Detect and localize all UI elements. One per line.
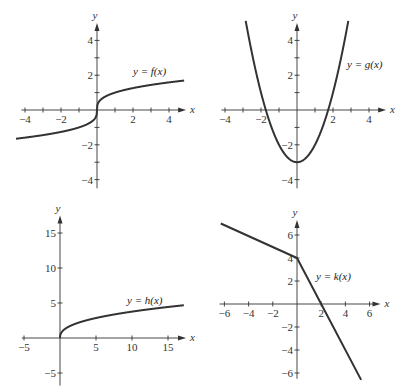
x-tick-label: 2	[330, 113, 336, 125]
function-curve-h	[60, 305, 184, 338]
x-axis-arrow-icon	[372, 302, 380, 307]
x-axis-arrow-icon	[178, 336, 186, 341]
y-tick-label: −5	[44, 367, 56, 379]
x-tick-label: −4	[243, 307, 255, 319]
x-tick-label: 4	[366, 113, 372, 125]
y-tick-label: 6	[288, 229, 294, 241]
x-tick-label: −5	[18, 341, 30, 353]
y-tick-label: 2	[288, 69, 294, 81]
y-axis-label: y	[92, 9, 98, 21]
x-tick-label: 4	[166, 113, 172, 125]
x-axis-label: x	[189, 103, 195, 115]
graph-panel-g: −4−22442−2−4xyy = g(x)	[219, 9, 395, 188]
x-tick-label: 4	[343, 307, 349, 319]
y-tick-label: −6	[281, 367, 293, 379]
y-axis-label: y	[292, 206, 298, 218]
graphs-canvas: −4−22442−2−4xyy = f(x)−4−22442−2−4xyy = …	[0, 0, 405, 392]
x-tick-label: −4	[19, 113, 31, 125]
graph-panel-h: −55101515105−5xyy = h(x)	[18, 202, 195, 386]
y-tick-label: −4	[81, 174, 93, 186]
y-axis-label: y	[292, 9, 298, 21]
function-label: y = g(x)	[346, 58, 383, 71]
function-label: y = k(x)	[315, 270, 351, 283]
y-tick-label: 4	[88, 34, 94, 46]
x-tick-label: 15	[163, 341, 175, 353]
x-tick-label: 5	[93, 341, 99, 353]
x-tick-label: −2	[255, 113, 267, 125]
x-axis-arrow-icon	[378, 108, 386, 113]
x-axis-label: x	[389, 103, 395, 115]
y-axis-arrow-icon	[95, 23, 100, 31]
x-tick-label: 2	[130, 113, 136, 125]
y-tick-label: 4	[288, 34, 294, 46]
y-tick-label: 15	[45, 227, 57, 239]
x-axis-label: x	[189, 331, 195, 343]
function-curve-k	[221, 224, 361, 380]
y-tick-label: 2	[288, 275, 294, 287]
y-tick-label: −2	[281, 139, 293, 151]
graph-panel-k: −6−4−2246642−2−4−6xyy = k(x)	[219, 206, 390, 380]
y-axis-label: y	[55, 202, 61, 214]
x-tick-label: 6	[367, 307, 373, 319]
y-axis-arrow-icon	[58, 216, 63, 224]
x-tick-label: −2	[267, 307, 279, 319]
y-tick-label: −4	[281, 344, 293, 356]
y-axis-arrow-icon	[295, 23, 300, 31]
function-label: y = f(x)	[132, 65, 166, 78]
x-tick-label: −4	[219, 113, 231, 125]
x-axis-arrow-icon	[178, 108, 186, 113]
y-tick-label: 10	[45, 262, 57, 274]
function-label: y = h(x)	[126, 294, 163, 307]
figure-four-function-graphs: −4−22442−2−4xyy = f(x)−4−22442−2−4xyy = …	[0, 0, 405, 392]
y-tick-label: 5	[51, 297, 57, 309]
x-tick-label: −6	[219, 307, 231, 319]
x-tick-label: 10	[127, 341, 139, 353]
y-tick-label: −2	[81, 139, 93, 151]
graph-panel-f: −4−22442−2−4xyy = f(x)	[16, 9, 195, 188]
y-tick-label: −2	[281, 321, 293, 333]
y-tick-label: 2	[88, 69, 94, 81]
x-tick-label: −2	[55, 113, 67, 125]
y-axis-arrow-icon	[295, 220, 300, 228]
x-axis-label: x	[383, 297, 389, 309]
y-tick-label: −4	[281, 174, 293, 186]
